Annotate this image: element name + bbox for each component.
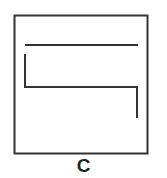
figure-diagram [0,0,167,178]
outer-box [15,16,148,154]
figure-label: C [0,156,167,176]
zigzag-line [25,54,137,118]
